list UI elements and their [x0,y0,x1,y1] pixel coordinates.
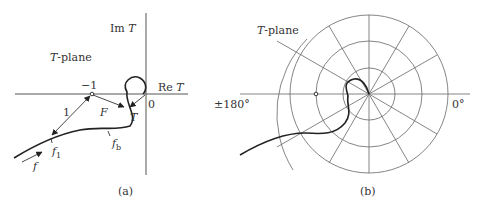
outer-magnitude-arc [277,39,307,170]
vector-t-label: T [130,111,139,124]
caption-a: (a) [118,185,133,198]
caption-b: (b) [360,185,376,198]
fb-tick [108,131,110,136]
vector-f-arrow [93,95,124,107]
vector-t-arrow [130,95,145,107]
frequency-direction-arrow [22,152,42,162]
panel-a: Im T T-plane Re T 0 −1 1 F T f f1 fb (a) [14,13,188,198]
radial-240 [329,94,369,163]
radial-30 [369,55,437,94]
nyquist-curve [14,77,146,158]
angle-180-label: ±180° [214,98,250,111]
vector-f-label: F [99,106,108,119]
radial-300 [369,94,409,163]
fb-label: fb [111,137,121,152]
im-axis-label: Im T [110,22,137,35]
frequency-label: f [32,160,39,173]
f1-label: f1 [51,145,61,160]
origin-label: 0 [148,98,155,111]
radial-120 [329,26,369,94]
figure: Im T T-plane Re T 0 −1 1 F T f f1 fb (a) [0,0,480,209]
t-plane-label: T-plane [50,51,92,64]
t-plane-label-b: T-plane [257,24,299,37]
distance-label: 1 [63,106,70,119]
panel-b: T-plane ±180° 0° (b) [214,15,470,198]
radial-330 [369,94,437,134]
re-axis-label: Re T [158,81,185,94]
angle-0-label: 0° [452,98,465,111]
critical-point-marker-b [314,92,318,96]
radial-60 [369,26,409,94]
critical-point-label: −1 [81,79,97,92]
